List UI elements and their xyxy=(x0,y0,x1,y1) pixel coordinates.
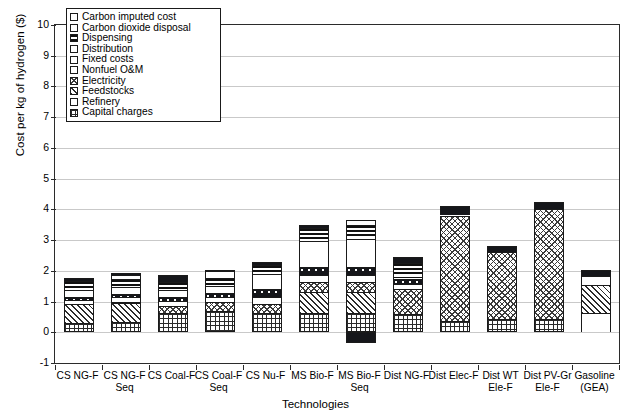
bar-segment xyxy=(111,302,141,304)
y-tick-label: 4 xyxy=(29,203,49,213)
bar-segment xyxy=(252,265,282,274)
legend-label: Capital charges xyxy=(82,107,153,118)
bar-segment xyxy=(487,252,517,319)
y-tick-label: 5 xyxy=(29,173,49,183)
legend-label: Carbon imputed cost xyxy=(82,12,176,23)
bar-segment xyxy=(440,321,470,333)
bar-segment xyxy=(581,276,611,285)
bar-segment xyxy=(111,297,141,301)
bar-segment xyxy=(205,286,235,293)
bar-segment xyxy=(158,301,188,307)
bar-segment xyxy=(205,271,235,277)
bar-segment xyxy=(393,257,423,263)
bar-segment xyxy=(581,270,611,276)
bar-slot xyxy=(290,25,337,363)
bar-segment xyxy=(111,294,141,297)
bar-segment xyxy=(111,303,141,322)
y-tick-label: 8 xyxy=(29,80,49,90)
legend-swatch-icon xyxy=(70,66,78,74)
bar-segment xyxy=(158,306,188,313)
bar-segment xyxy=(158,313,188,332)
bar-segment xyxy=(111,279,141,288)
bar-segment xyxy=(534,209,564,319)
bar-segment xyxy=(346,220,376,226)
y-tick-label: 10 xyxy=(29,19,49,29)
bar-segment xyxy=(299,275,329,282)
bar-slot xyxy=(431,25,478,363)
bar-segment xyxy=(299,225,329,228)
stacked-bar-chart-figure: Cost per kg of hydrogen ($) -10123456789… xyxy=(0,0,631,420)
bar-segment xyxy=(252,304,282,313)
y-tick-label: 7 xyxy=(29,111,49,121)
bar-segment xyxy=(252,262,282,264)
bar-segment xyxy=(252,289,282,297)
bar-segment xyxy=(534,319,564,333)
y-tick-mark xyxy=(51,363,56,364)
bar-segment xyxy=(299,267,329,276)
y-tick-label: 0 xyxy=(29,326,49,336)
bar-segment xyxy=(64,304,94,323)
stacked-bar[interactable] xyxy=(393,25,423,363)
bar-segment xyxy=(205,270,235,272)
x-axis-title: Technologies xyxy=(0,398,631,410)
bar-segment xyxy=(111,322,141,332)
bar-segment xyxy=(158,290,188,297)
stacked-bar[interactable] xyxy=(581,25,611,363)
bar-segment xyxy=(64,290,94,297)
bar-segment xyxy=(581,313,611,332)
bar-segment xyxy=(64,278,94,281)
bar-segment xyxy=(158,282,188,291)
legend-swatch-icon xyxy=(70,87,78,95)
bar-segment xyxy=(158,275,188,282)
bar-segment xyxy=(393,263,423,280)
legend-item: Nonfuel O&M xyxy=(70,65,216,76)
bar-segment xyxy=(393,279,423,283)
bar-segment xyxy=(346,275,376,282)
bar-segment xyxy=(205,293,235,297)
legend-swatch-icon xyxy=(70,56,78,64)
legend-swatch-icon xyxy=(70,34,78,42)
y-tick-label: 6 xyxy=(29,142,49,152)
stacked-bar[interactable] xyxy=(299,25,329,363)
stacked-bar[interactable] xyxy=(252,25,282,363)
bar-segment xyxy=(252,313,282,332)
y-tick-label: 1 xyxy=(29,296,49,306)
y-tick-label: -1 xyxy=(29,357,49,367)
bar-segment xyxy=(393,289,423,314)
bar-segment xyxy=(346,225,376,239)
bar-segment xyxy=(64,323,94,332)
bar-segment xyxy=(299,292,329,314)
bar-segment xyxy=(252,274,282,289)
bar-segment xyxy=(346,332,376,343)
bar-slot xyxy=(384,25,431,363)
y-tick-label: 3 xyxy=(29,234,49,244)
legend-item: Carbon imputed cost xyxy=(70,12,216,23)
y-axis-title: Cost per kg of hydrogen ($) xyxy=(14,0,28,250)
bar-segment xyxy=(534,202,564,209)
bar-segment xyxy=(346,313,376,332)
legend-item: Capital charges xyxy=(70,107,216,118)
bar-segment xyxy=(487,246,517,252)
bar-segment xyxy=(64,300,94,304)
bar-slot xyxy=(572,25,619,363)
legend: Carbon imputed costCarbon dioxide dispos… xyxy=(66,8,221,122)
bar-segment xyxy=(299,313,329,332)
x-tick-label: Gasoline (GEA) xyxy=(566,370,623,394)
bar-segment xyxy=(252,297,282,304)
y-tick-label: 9 xyxy=(29,50,49,60)
bar-segment xyxy=(393,314,423,332)
bar-segment xyxy=(581,285,611,313)
legend-label: Nonfuel O&M xyxy=(82,65,143,76)
bar-segment xyxy=(64,281,94,290)
bar-segment xyxy=(346,282,376,291)
stacked-bar[interactable] xyxy=(487,25,517,363)
bar-segment xyxy=(487,319,517,332)
bar-segment xyxy=(346,239,376,267)
stacked-bar[interactable] xyxy=(440,25,470,363)
stacked-bar[interactable] xyxy=(534,25,564,363)
bar-segment xyxy=(346,267,376,276)
bar-segment xyxy=(111,275,141,279)
bar-segment xyxy=(64,297,94,300)
bar-slot xyxy=(478,25,525,363)
stacked-bar[interactable] xyxy=(346,25,376,363)
